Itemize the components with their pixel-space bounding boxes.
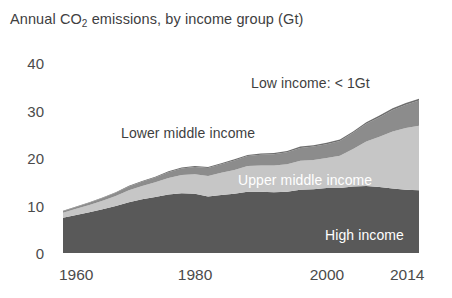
series-label-low-income-1gt: Low income: < 1Gt — [251, 76, 370, 90]
stacked-area-plot — [0, 0, 452, 298]
series-label-lower-middle-income: Lower middle income — [121, 126, 255, 140]
chart-container: Annual CO2 emissions, by income group (G… — [0, 0, 452, 298]
series-label-upper-middle-income: Upper middle income — [238, 173, 372, 187]
series-label-high-income: High income — [325, 228, 404, 242]
